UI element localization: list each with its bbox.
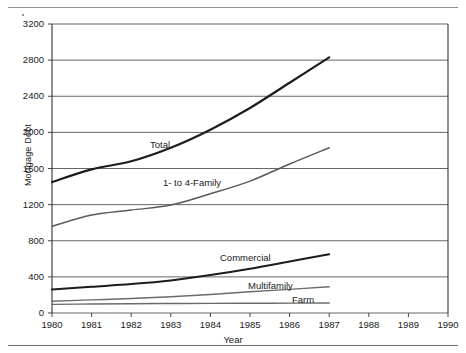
chart-page: Mortgage Debt 04008001200160020002400280…: [0, 0, 466, 353]
series-label-1-to-4-family: 1- to 4-Family: [163, 178, 221, 188]
series-label-total: Total: [150, 140, 170, 150]
x-axis-title: Year: [0, 334, 466, 345]
bottom-divider-rule: [8, 345, 458, 346]
series-label-multifamily: Multifamily: [248, 281, 293, 291]
series-label-farm: Farm: [292, 295, 314, 305]
line-chart-plot: [0, 0, 466, 353]
series-line: [52, 57, 329, 182]
series-line: [52, 303, 329, 304]
series-label-commercial: Commercial: [220, 253, 271, 263]
